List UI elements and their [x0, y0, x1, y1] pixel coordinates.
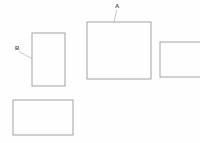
center-large-rectangle[interactable] [87, 22, 151, 79]
callout-b-leader-line [19, 52, 32, 59]
diagram-canvas: A B [0, 0, 200, 143]
diagram-svg: A B [0, 0, 200, 143]
left-upper-rectangle[interactable] [32, 33, 65, 86]
bottom-left-rectangle[interactable] [13, 100, 73, 135]
right-clipped-rectangle[interactable] [160, 42, 200, 77]
callout-a-leader-line [114, 10, 117, 22]
callout-label-b: B [15, 45, 20, 51]
callout-label-a: A [115, 3, 120, 9]
